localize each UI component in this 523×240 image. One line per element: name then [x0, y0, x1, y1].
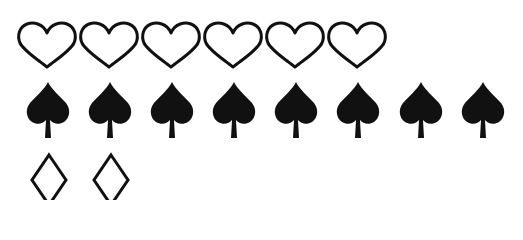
spade-filled-icon	[26, 82, 70, 138]
spade-filled-icon	[399, 82, 443, 138]
spade-filled-icon	[336, 82, 380, 138]
spade-filled-icon	[274, 82, 318, 138]
heart-outline-icon	[17, 21, 77, 69]
diamond-outline-icon	[30, 153, 68, 200]
spade-filled-icon	[150, 82, 194, 138]
spade-filled-icon	[212, 82, 256, 138]
heart-outline-icon	[265, 21, 325, 69]
heart-outline-icon	[79, 21, 139, 69]
heart-outline-icon	[141, 21, 201, 69]
spade-filled-icon	[461, 82, 505, 138]
heart-outline-icon	[203, 21, 263, 69]
diamond-outline-icon	[92, 153, 130, 200]
heart-outline-icon	[327, 21, 387, 69]
spade-filled-icon	[88, 82, 132, 138]
